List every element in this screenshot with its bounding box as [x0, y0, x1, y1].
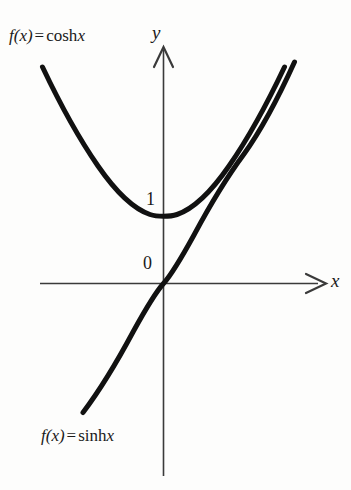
plot-canvas [0, 0, 351, 490]
sinh-function-label: f(x)=sinhx [41, 427, 114, 444]
x-axis-label: x [331, 271, 339, 290]
cosh-label-arg: (x) [14, 26, 33, 45]
origin-label-zero: 0 [143, 254, 152, 272]
sinh-label-equals: = [65, 426, 79, 445]
cosh-label-equals: = [33, 26, 47, 45]
cosh-label-variable: x [77, 26, 85, 45]
y-axis-tick-label-one: 1 [146, 190, 155, 208]
sinh-label-arg: (x) [46, 426, 65, 445]
cosh-function-label: f(x)=coshx [9, 27, 85, 44]
sinh-label-name: sinh [78, 426, 106, 445]
cosh-label-name: cosh [46, 26, 77, 45]
hyperbolic-functions-figure: f(x)=coshx f(x)=sinhx y x 1 0 [0, 0, 351, 490]
sinh-label-variable: x [107, 426, 115, 445]
y-axis-label: y [152, 23, 160, 42]
